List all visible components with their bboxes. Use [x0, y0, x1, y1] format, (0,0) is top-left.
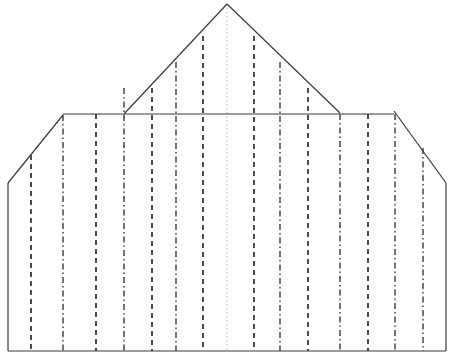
outline-right-chamfer	[394, 111, 446, 183]
outline-left-chamfer	[8, 115, 63, 183]
outline-roof-right-slope	[227, 4, 340, 113]
technical-drawing-canvas	[0, 0, 455, 361]
drawing-svg	[0, 0, 455, 361]
outline-roof-left-slope	[124, 4, 227, 114]
